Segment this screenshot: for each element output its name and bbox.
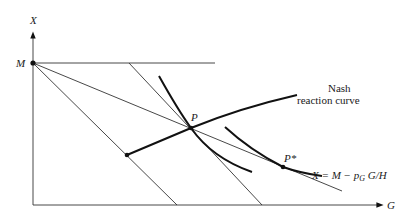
p-star-label: P* [283, 152, 297, 164]
p-label: P [190, 111, 198, 123]
indifference-curve-p [159, 76, 252, 172]
m-label: M [15, 57, 26, 69]
point-p-star [281, 165, 286, 170]
point-m [30, 60, 35, 65]
budget-line-steep [33, 63, 177, 205]
x-axis-label: G [387, 199, 395, 211]
nash-label-line2: reaction curve [297, 94, 360, 106]
nash-label-line1: Nash [328, 82, 351, 94]
indifference-curve-p-star [225, 127, 322, 176]
y-axis-label: X [29, 14, 38, 26]
point-p [189, 126, 194, 131]
nash-equilibrium-diagram: X G M Nash reaction curve P P* X = M − p… [0, 0, 412, 218]
point-start [125, 153, 130, 158]
nash-reaction-curve [127, 95, 297, 155]
budget-equation: X = M − pG G/H [311, 169, 388, 183]
